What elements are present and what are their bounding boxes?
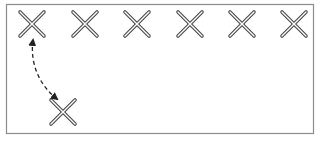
x-mark-icon [73,12,97,36]
x-mark-icon [125,12,149,36]
x-mark-icon [20,12,44,36]
x-mark-icon [178,12,202,36]
diagram-frame [7,5,314,134]
dashed-double-arrow [32,40,57,99]
diagram-canvas [0,0,317,141]
x-marks-group [20,12,306,124]
x-mark-icon [282,12,306,36]
x-mark-icon [51,100,75,124]
x-mark-icon [230,12,254,36]
